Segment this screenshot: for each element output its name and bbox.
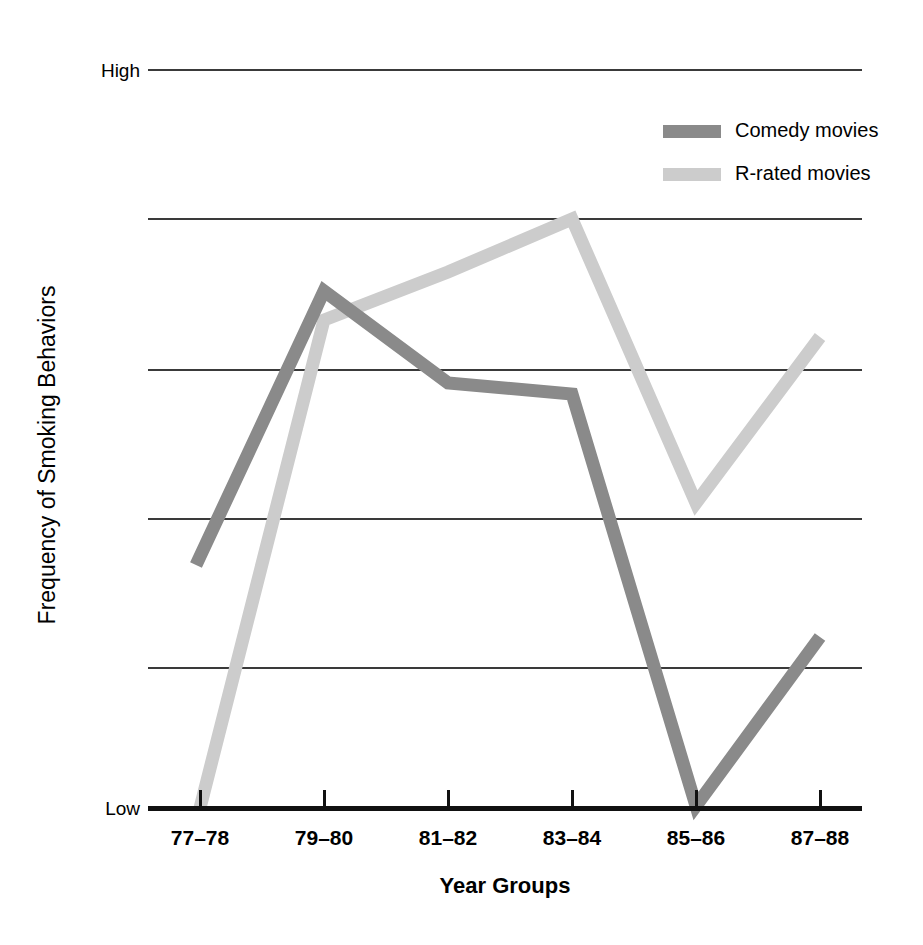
- x-tick-label-2: 81–82: [419, 826, 477, 849]
- x-tick-label-1: 79–80: [295, 826, 353, 849]
- x-tick-label-3: 83–84: [543, 826, 602, 849]
- series-r-rated-movies: [200, 219, 820, 808]
- x-tick-label-5: 87–88: [791, 826, 850, 849]
- chart-legend: Comedy movies R-rated movies: [663, 119, 878, 184]
- series-line-r-rated-movies: [200, 219, 820, 808]
- line-chart: 77–78 79–80 81–82 83–84 85–86 87–88 High…: [0, 0, 923, 945]
- x-axis-ticks: [200, 790, 820, 808]
- x-axis-tick-labels: 77–78 79–80 81–82 83–84 85–86 87–88: [171, 826, 850, 849]
- legend-label-r-rated-movies: R-rated movies: [735, 162, 871, 184]
- y-axis-low-label: Low: [105, 798, 140, 819]
- x-axis-title: Year Groups: [440, 873, 571, 898]
- legend-swatch-r-rated-movies: [663, 168, 721, 181]
- series-line-comedy-movies: [196, 291, 820, 806]
- legend-swatch-comedy-movies: [663, 125, 721, 138]
- y-axis-title: Frequency of Smoking Behaviors: [34, 286, 60, 625]
- x-tick-label-0: 77–78: [171, 826, 230, 849]
- x-tick-label-4: 85–86: [667, 826, 725, 849]
- chart-container: 77–78 79–80 81–82 83–84 85–86 87–88 High…: [0, 0, 923, 945]
- series-comedy-movies: [196, 291, 820, 806]
- legend-label-comedy-movies: Comedy movies: [735, 119, 878, 141]
- y-axis-high-label: High: [101, 60, 140, 81]
